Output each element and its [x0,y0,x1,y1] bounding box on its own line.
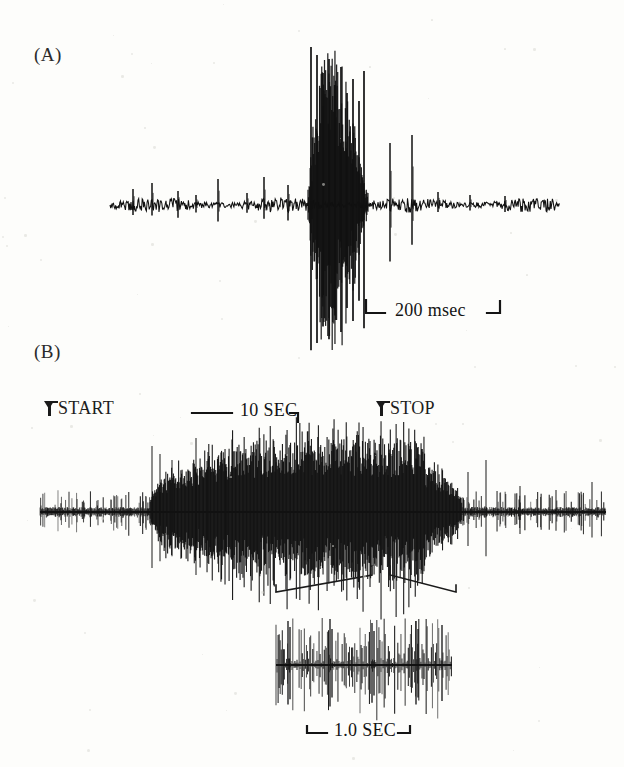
scale-label-10sec: 10 SEC [240,400,297,421]
inset-trace [276,618,452,720]
start-arrow-icon [44,401,58,416]
marker-label-stop: STOP [390,398,435,419]
trace-layer [0,0,624,767]
panel-a-trace [110,47,559,350]
figure-root: (A) (B) START STOP 200 msec 10 SEC 1.0 S… [0,0,624,767]
panel-b-trace [40,417,606,619]
marker-label-start: START [58,398,114,419]
panel-label-b: (B) [34,341,61,363]
scale-label-1sec: 1.0 SEC [334,720,396,741]
stop-arrow-icon [376,401,390,416]
panel-label-a: (A) [34,44,62,66]
scale-label-200msec: 200 msec [395,300,466,321]
expansion-brackets [276,566,456,592]
